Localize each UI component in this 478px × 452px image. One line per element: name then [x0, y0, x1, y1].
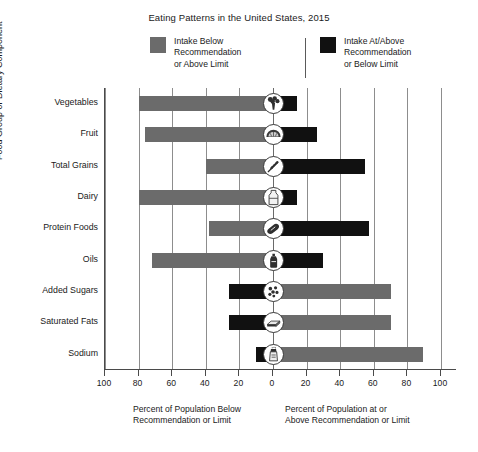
oils-icon [263, 250, 284, 271]
legend-label-below: Intake Below Recommendation or Above Lim… [174, 36, 241, 70]
x-tick [104, 370, 105, 376]
chart-title: Eating Patterns in the United States, 20… [0, 12, 478, 23]
x-tick [440, 370, 441, 376]
chart-row: Vegetables [105, 88, 456, 119]
bar-left [139, 96, 273, 111]
legend-entry-atabove: Intake At/Above Recommendation or Below … [320, 36, 411, 70]
bar-left [145, 127, 273, 142]
category-label: Protein Foods [0, 222, 98, 232]
legend-label-atabove: Intake At/Above Recommendation or Below … [344, 36, 411, 70]
x-tick [238, 370, 239, 376]
chart-row: Saturated Fats [105, 307, 456, 338]
sodium-icon [263, 344, 284, 365]
y-axis-title: Food Group or Dietary Component [0, 21, 4, 160]
chart-legend: Intake Below Recommendation or Above Lim… [150, 36, 470, 80]
bar-right [273, 347, 423, 362]
chart-row: Total Grains [105, 151, 456, 182]
protein-icon [263, 218, 284, 239]
saturated-fats-icon [263, 312, 284, 333]
added-sugars-icon [263, 281, 284, 302]
x-tick [205, 370, 206, 376]
chart-row: Fruit [105, 119, 456, 150]
bar-right [273, 315, 391, 330]
chart-row: Protein Foods [105, 213, 456, 244]
chart-row: Oils [105, 245, 456, 276]
bar-right [273, 284, 391, 299]
plot-area: VegetablesFruitTotal GrainsDairyProtein … [104, 88, 455, 370]
broccoli-icon [263, 93, 284, 114]
dairy-icon [263, 187, 284, 208]
bar-right [273, 159, 365, 174]
x-tick [138, 370, 139, 376]
x-tick [272, 370, 273, 376]
x-tick [339, 370, 340, 376]
category-label: Added Sugars [0, 285, 98, 295]
x-axis-caption-left: Percent of Population Below Recommendati… [133, 404, 241, 427]
category-label: Vegetables [0, 97, 98, 107]
category-label: Oils [0, 254, 98, 264]
x-tick-label: 100 [420, 378, 460, 388]
x-tick [306, 370, 307, 376]
legend-swatch-atabove [320, 37, 336, 53]
category-label: Fruit [0, 128, 98, 138]
bar-left [152, 253, 273, 268]
x-tick [373, 370, 374, 376]
fruit-slice-icon [263, 124, 284, 145]
category-label: Sodium [0, 348, 98, 358]
legend-divider [305, 38, 306, 78]
legend-entry-below: Intake Below Recommendation or Above Lim… [150, 36, 241, 70]
category-label: Saturated Fats [0, 316, 98, 326]
category-label: Total Grains [0, 160, 98, 170]
grain-icon [263, 156, 284, 177]
bar-left [139, 190, 273, 205]
chart-row: Sodium [105, 339, 456, 370]
chart-row: Dairy [105, 182, 456, 213]
legend-swatch-below [150, 37, 166, 53]
x-tick [406, 370, 407, 376]
chart-row: Added Sugars [105, 276, 456, 307]
category-label: Dairy [0, 191, 98, 201]
x-tick [171, 370, 172, 376]
bar-right [273, 221, 369, 236]
x-axis-caption-right: Percent of Population at or Above Recomm… [285, 404, 410, 427]
eating-patterns-chart: Eating Patterns in the United States, 20… [0, 0, 478, 452]
x-axis-line [104, 369, 456, 370]
